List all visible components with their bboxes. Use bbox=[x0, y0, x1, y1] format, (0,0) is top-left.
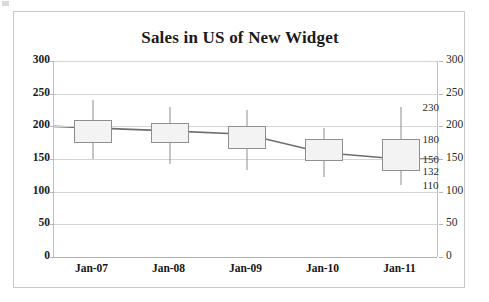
lower-whisker bbox=[323, 161, 324, 177]
candle-jan-09 bbox=[208, 61, 285, 257]
x-axis-labels: Jan-07Jan-08Jan-09Jan-10Jan-11 bbox=[53, 262, 438, 282]
y-axis-right-tick-label: 300 bbox=[446, 53, 486, 65]
scan-artifact bbox=[2, 1, 9, 6]
y-axis-right-tick-mark bbox=[439, 94, 443, 95]
x-axis-label-jan-11: Jan-11 bbox=[383, 262, 416, 274]
x-axis-label-jan-09: Jan-09 bbox=[229, 262, 262, 274]
lower-whisker bbox=[169, 143, 170, 165]
upper-whisker bbox=[323, 128, 324, 140]
y-axis-right-tick-label: 200 bbox=[446, 118, 486, 130]
box bbox=[74, 120, 112, 143]
y-axis-right-tick-mark bbox=[439, 192, 443, 193]
chart-screenshot: Sales in US of New Widget 00505010010015… bbox=[0, 0, 489, 302]
box bbox=[151, 123, 189, 143]
data-label: 110 bbox=[423, 179, 439, 191]
y-axis-left-tick-label: 50 bbox=[16, 216, 50, 228]
box bbox=[305, 139, 343, 161]
y-axis-left-tick-label: 150 bbox=[16, 151, 50, 163]
candle-jan-07 bbox=[54, 61, 131, 257]
y-axis-right-tick-mark bbox=[439, 224, 443, 225]
y-axis-left-tick-label: 100 bbox=[16, 184, 50, 196]
y-axis-right-tick-mark bbox=[439, 126, 443, 127]
y-axis-left-tick-label: 200 bbox=[16, 118, 50, 130]
upper-whisker bbox=[92, 100, 93, 120]
y-axis-right-tick-label: 0 bbox=[446, 249, 486, 261]
y-axis-left-tick-mark bbox=[50, 257, 54, 258]
y-axis-left-tick-label: 300 bbox=[16, 53, 50, 65]
candle-jan-08 bbox=[131, 61, 208, 257]
lower-whisker bbox=[246, 149, 247, 170]
upper-whisker bbox=[246, 110, 247, 126]
gridline bbox=[54, 257, 437, 258]
box bbox=[382, 139, 420, 170]
lower-whisker bbox=[400, 171, 401, 185]
upper-whisker bbox=[400, 107, 401, 140]
box bbox=[228, 126, 266, 149]
data-label: 230 bbox=[423, 101, 440, 113]
lower-whisker bbox=[92, 143, 93, 159]
chart-title: Sales in US of New Widget bbox=[14, 28, 466, 48]
upper-whisker bbox=[169, 107, 170, 123]
chart-frame: Sales in US of New Widget 00505010010015… bbox=[13, 11, 465, 288]
data-label: 132 bbox=[423, 165, 440, 177]
y-axis-right-tick-label: 250 bbox=[446, 86, 486, 98]
candle-jan-10 bbox=[285, 61, 362, 257]
x-axis-label-jan-10: Jan-10 bbox=[306, 262, 339, 274]
x-axis-label-jan-07: Jan-07 bbox=[75, 262, 108, 274]
x-axis-label-jan-08: Jan-08 bbox=[152, 262, 185, 274]
y-axis-right-tick-label: 150 bbox=[446, 151, 486, 163]
data-label: 150 bbox=[423, 153, 440, 165]
y-axis-right-tick-mark bbox=[439, 159, 443, 160]
y-axis-right-tick-mark bbox=[439, 61, 443, 62]
plot-area: 0050501001001501502002002502503003002301… bbox=[53, 61, 438, 257]
y-axis-right-tick-label: 100 bbox=[446, 184, 486, 196]
y-axis-right-tick-mark bbox=[439, 257, 443, 258]
data-label: 180 bbox=[423, 133, 440, 145]
y-axis-left-tick-label: 250 bbox=[16, 86, 50, 98]
y-axis-left-tick-label: 0 bbox=[16, 249, 50, 261]
y-axis-right-tick-label: 50 bbox=[446, 216, 486, 228]
